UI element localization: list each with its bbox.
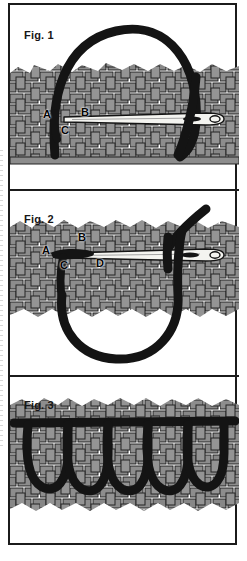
figure-panel-2: Fig. 2 (10, 191, 239, 377)
figure-1-label: Fig. 1 (24, 29, 54, 41)
page-edge-artifact (0, 150, 3, 450)
figure-panel-1: Fig. 1 (10, 5, 239, 191)
diagram-frame: Fig. 1 (8, 3, 237, 545)
figure-2-label: Fig. 2 (24, 213, 54, 225)
figure-2-point-c: C (60, 259, 68, 271)
figure-1-point-b: B (81, 106, 89, 118)
figure-1-point-c: C (61, 124, 69, 136)
figure-2-fabric (10, 211, 239, 331)
figure-panel-3: Fig. 3 (10, 377, 239, 547)
figure-1-point-a: A (43, 108, 51, 120)
figure-2-point-a: A (42, 244, 50, 256)
figure-3-label: Fig. 3 (24, 399, 54, 411)
figure-2-point-b: B (78, 231, 86, 243)
figure-2-point-d: D (96, 257, 104, 269)
diagram-plate: Fig. 1 (0, 0, 247, 561)
figure-2-thread-through-eye (167, 237, 168, 269)
figure-1-thread-tail (55, 113, 57, 139)
